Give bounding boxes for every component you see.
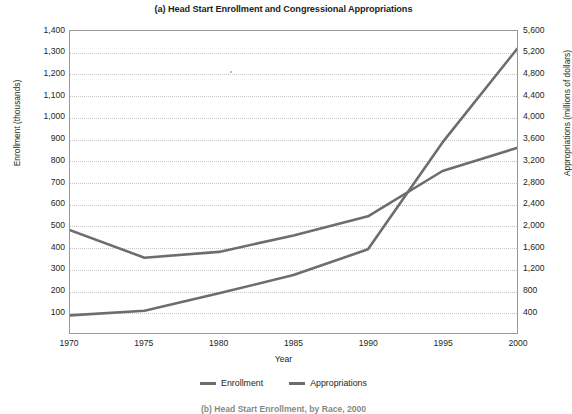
next-figure-caption: (b) Head Start Enrollment, by Race, 2000 [0, 404, 567, 414]
y-right-tick-label: 400 [523, 308, 569, 317]
y-right-tick-label: 1,200 [523, 264, 569, 273]
line-appropriations [70, 49, 517, 315]
legend-swatch-icon [289, 382, 305, 385]
y-right-tick-label: 4,000 [523, 112, 569, 121]
y-left-tick-label: 100 [21, 308, 65, 317]
y-right-tick-label: 3,600 [523, 134, 569, 143]
x-tick-label: 1975 [121, 339, 167, 348]
y-left-tick-label: 800 [21, 156, 65, 165]
legend-label: Enrollment [221, 378, 263, 388]
y-left-tick-label: 400 [21, 243, 65, 252]
y-right-tick-label: 5,200 [523, 47, 569, 56]
y-right-tick-label: 4,800 [523, 69, 569, 78]
y-left-tick-label: 900 [21, 134, 65, 143]
x-tick-label: 1970 [46, 339, 92, 348]
y-left-tick-label: 500 [21, 221, 65, 230]
y-right-tick-label: 1,600 [523, 243, 569, 252]
y-right-tick-label: 2,000 [523, 221, 569, 230]
y-left-tick-label: 700 [21, 178, 65, 187]
x-tick-label: 1995 [420, 339, 466, 348]
line-enrollment [70, 148, 517, 258]
y-right-tick-label: 800 [523, 286, 569, 295]
y-left-tick-label: 200 [21, 286, 65, 295]
legend-item-enrollment[interactable]: Enrollment [200, 378, 263, 388]
legend-item-appropriations[interactable]: Appropriations [289, 378, 367, 388]
x-tick-label: 1980 [196, 339, 242, 348]
legend-swatch-icon [200, 382, 216, 385]
x-axis-label: Year [0, 354, 567, 364]
y-right-tick-label: 5,600 [523, 26, 569, 35]
y-left-tick-label: 1,200 [21, 69, 65, 78]
y-left-tick-label: 600 [21, 199, 65, 208]
plot-area [69, 30, 518, 334]
y-right-tick-label: 4,400 [523, 91, 569, 100]
series-lines [70, 31, 517, 333]
x-tick-label: 1990 [345, 339, 391, 348]
y-right-tick-label: 3,200 [523, 156, 569, 165]
y-left-tick-label: 1,400 [21, 26, 65, 35]
y-left-tick-label: 300 [21, 264, 65, 273]
chart-title: (a) Head Start Enrollment and Congressio… [0, 4, 567, 14]
y-right-tick-label: 2,400 [523, 199, 569, 208]
legend-label: Appropriations [310, 378, 367, 388]
y-left-tick-label: 1,300 [21, 47, 65, 56]
y-left-tick-label: 1,100 [21, 91, 65, 100]
y-right-tick-label: 2,800 [523, 178, 569, 187]
y-left-tick-label: 1,000 [21, 112, 65, 121]
x-tick-label: 1985 [271, 339, 317, 348]
x-tick-label: 2000 [495, 339, 541, 348]
chart-legend: EnrollmentAppropriations [0, 378, 567, 388]
